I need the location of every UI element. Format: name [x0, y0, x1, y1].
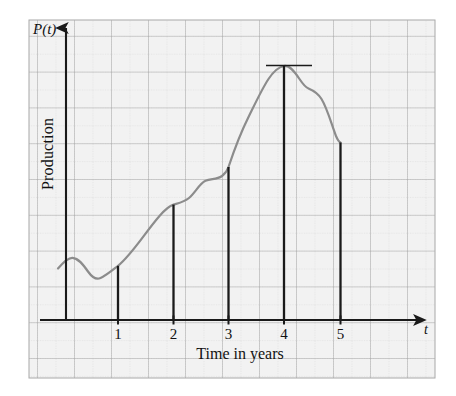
x-tick-label-2: 2 — [164, 326, 184, 343]
x-tick-label-5: 5 — [331, 326, 351, 343]
x-axis-symbol-label: t — [424, 322, 428, 338]
production-vs-time-chart: P(t) t Production Time in years 1 2 3 4 … — [0, 0, 456, 396]
y-axis-symbol-label: P(t) — [33, 21, 56, 38]
x-tick-label-1: 1 — [108, 326, 128, 343]
x-tick-label-4: 4 — [274, 326, 294, 343]
y-axis-title: Production — [39, 94, 57, 214]
plot-grid — [29, 20, 435, 378]
x-axis-title: Time in years — [160, 345, 320, 363]
x-tick-label-3: 3 — [219, 326, 239, 343]
